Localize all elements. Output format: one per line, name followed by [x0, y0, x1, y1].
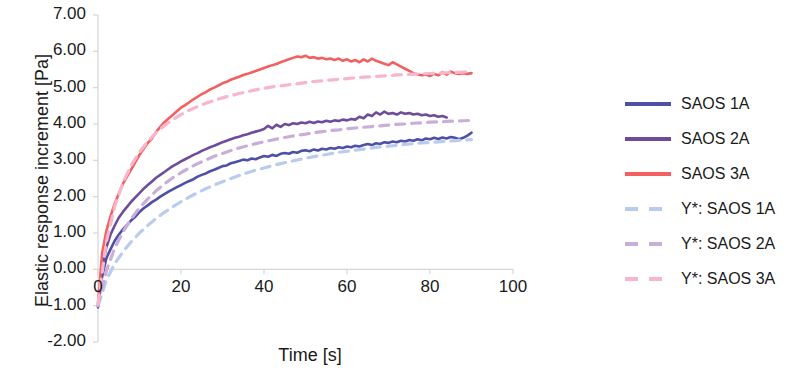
y-axis-tick-label: 5.00 — [14, 77, 86, 97]
x-axis-tick-label: 20 — [151, 277, 211, 297]
y-axis-tick-label: 2.00 — [14, 186, 86, 206]
legend-label: Y*: SAOS 1A — [681, 200, 775, 218]
y-axis-tick-label: -2.00 — [14, 331, 86, 351]
legend-item[interactable]: Y*: SAOS 2A — [625, 226, 800, 261]
legend-label: Y*: SAOS 3A — [681, 270, 775, 288]
legend-label: SAOS 3A — [681, 165, 749, 183]
y-axis-tick-label: 3.00 — [14, 149, 86, 169]
legend-item[interactable]: SAOS 3A — [625, 156, 800, 191]
chart-container: Elastic response increment [Pa] Time [s]… — [0, 0, 800, 376]
legend-swatch-icon — [625, 272, 671, 286]
legend-item[interactable]: Y*: SAOS 3A — [625, 261, 800, 296]
y-axis-tick-label: 6.00 — [14, 40, 86, 60]
legend-swatch-icon — [625, 237, 671, 251]
y-axis-title: Elastic response increment [Pa] — [32, 21, 53, 341]
legend-swatch-icon — [625, 132, 671, 146]
y-axis-tick-label: 1.00 — [14, 222, 86, 242]
x-axis-tick-label: 60 — [317, 277, 377, 297]
y-axis-tick-label: 7.00 — [14, 4, 86, 24]
legend-swatch-icon — [625, 97, 671, 111]
y-axis-tick-label: 4.00 — [14, 113, 86, 133]
legend-label: SAOS 1A — [681, 95, 749, 113]
y-axis-tick-label: 0.00 — [14, 258, 86, 278]
legend-label: SAOS 2A — [681, 130, 749, 148]
legend-item[interactable]: SAOS 2A — [625, 121, 800, 156]
x-axis-tick-label: 0 — [68, 277, 128, 297]
legend-label: Y*: SAOS 2A — [681, 235, 775, 253]
x-axis-tick-label: 100 — [483, 277, 543, 297]
legend-item[interactable]: SAOS 1A — [625, 86, 800, 121]
chart-legend: SAOS 1ASAOS 2ASAOS 3AY*: SAOS 1AY*: SAOS… — [625, 86, 800, 296]
y-axis-tick-label: -1.00 — [14, 295, 86, 315]
legend-swatch-icon — [625, 202, 671, 216]
legend-swatch-icon — [625, 167, 671, 181]
x-axis-title: Time [s] — [215, 345, 405, 366]
x-axis-tick-label: 40 — [234, 277, 294, 297]
x-axis-tick-label: 80 — [400, 277, 460, 297]
legend-item[interactable]: Y*: SAOS 1A — [625, 191, 800, 226]
